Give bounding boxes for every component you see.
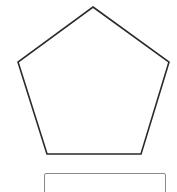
shape-question-panel: [0, 0, 177, 192]
pentagon-shape: [0, 0, 177, 165]
answer-input[interactable]: [44, 173, 166, 192]
pentagon-outline: [18, 7, 169, 154]
